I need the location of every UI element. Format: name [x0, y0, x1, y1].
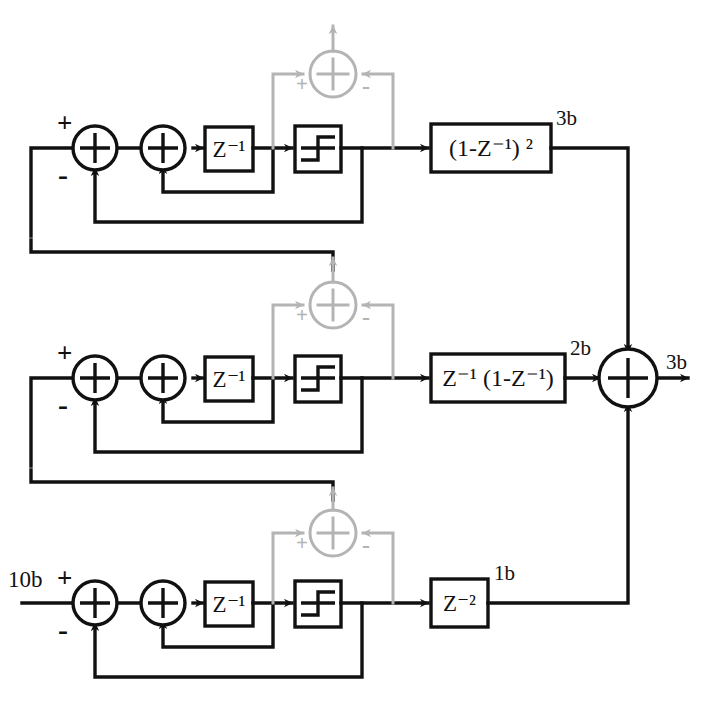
summer-plus-sign-stage1: + — [57, 110, 72, 137]
bus-bit-label-stage2: 2b — [570, 338, 591, 359]
bus-bit-label-stage1: 3b — [556, 108, 577, 129]
summer-minus-sign-stage3: - — [58, 615, 68, 645]
ghost-summer-minus-middle: - — [362, 305, 370, 329]
ghost-summer-plus-top: + — [296, 74, 308, 95]
summer-plus-sign-stage2: + — [57, 340, 72, 367]
summer-minus-sign-stage1: - — [58, 160, 68, 190]
ghost-summer-minus-bottom: - — [362, 533, 370, 557]
ghost-summer-plus-bottom: + — [296, 533, 308, 554]
delay-block-label-stage2: Z⁻¹ — [205, 357, 253, 401]
ghost-summer-plus-middle: + — [296, 305, 308, 326]
output-bit-label: 3b — [666, 352, 687, 373]
input-bit-label: 10b — [8, 568, 43, 591]
noise-cancel-filter-stage1: (1-Z⁻¹) ² — [431, 124, 551, 172]
ghost-summer-minus-top: - — [362, 74, 370, 98]
noise-cancel-filter-stage2: Z⁻¹ (1-Z⁻¹) — [431, 354, 565, 402]
noise-cancel-filter-stage3: Z⁻² — [431, 579, 488, 627]
block-diagram-canvas: 10b + - + - + - + - + - + - Z⁻¹ Z⁻¹ Z⁻¹ … — [0, 0, 703, 704]
delay-block-label-stage1: Z⁻¹ — [205, 127, 253, 171]
summer-minus-sign-stage2: - — [58, 390, 68, 420]
diagram-svg — [0, 0, 703, 704]
delay-block-label-stage3: Z⁻¹ — [205, 582, 253, 626]
signal-paths-dark — [22, 124, 688, 677]
summer-plus-sign-stage3: + — [57, 565, 72, 592]
bus-bit-label-stage3: 1b — [494, 563, 515, 584]
quantization-noise-paths — [273, 26, 393, 603]
